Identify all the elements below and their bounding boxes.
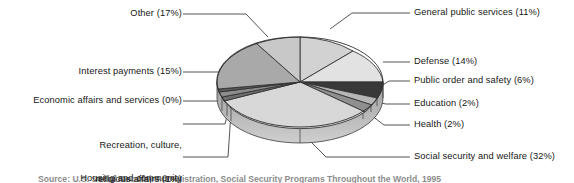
leader-general-public-services	[330, 13, 410, 29]
pie-body	[217, 37, 383, 143]
label-economic-affairs-and-services: Economic affairs and services (0%)	[33, 95, 182, 106]
label-social-security-and-welfare: Social security and welfare (32%)	[414, 151, 555, 162]
leader-other	[183, 14, 268, 37]
label-health: Health (2%)	[414, 119, 464, 130]
label-general-public-services: General public services (11%)	[414, 7, 540, 18]
pie-slices	[217, 37, 383, 129]
label-interest-payments: Interest payments (15%)	[79, 66, 182, 77]
label-public-order-and-safety: Public order and safety (6%)	[414, 75, 534, 86]
leader-housing	[183, 112, 231, 157]
source-caption: Source: U.S. Social Security Administrat…	[38, 174, 441, 183]
label-other: Other (17%)	[130, 8, 182, 19]
label-defense: Defense (14%)	[414, 56, 477, 67]
pie-chart-figure: Other (17%) Interest payments (15%) Econ…	[0, 0, 574, 183]
label-recreation-line-1: Recreation, culture,	[95, 140, 182, 151]
label-education: Education (2%)	[414, 98, 479, 109]
